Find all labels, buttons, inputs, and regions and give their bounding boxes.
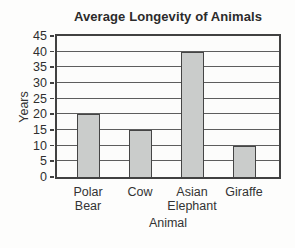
x-axis-title: Animal bbox=[55, 216, 281, 230]
gridline-40 bbox=[57, 51, 279, 52]
y-tick-mark-45 bbox=[50, 35, 54, 37]
y-tick-label-45: 45 bbox=[33, 29, 47, 43]
y-tick-mark-25 bbox=[50, 98, 54, 100]
y-tick-mark-5 bbox=[50, 160, 54, 162]
y-tick-label-5: 5 bbox=[40, 154, 47, 168]
bar-asian-elephant bbox=[181, 52, 204, 177]
y-tick-mark-15 bbox=[50, 129, 54, 131]
y-tick-mark-20 bbox=[50, 113, 54, 115]
bar-giraffe bbox=[233, 146, 256, 177]
bar-polar-bear bbox=[77, 114, 100, 177]
gridline-35 bbox=[57, 66, 279, 67]
y-tick-label-40: 40 bbox=[33, 45, 47, 59]
y-tick-mark-0 bbox=[50, 176, 54, 178]
y-tick-mark-30 bbox=[50, 82, 54, 84]
y-tick-label-20: 20 bbox=[33, 107, 47, 121]
gridline-30 bbox=[57, 82, 279, 83]
y-tick-label-10: 10 bbox=[33, 139, 47, 153]
x-category-label-giraffe: Giraffe bbox=[219, 185, 269, 199]
plot-area bbox=[55, 34, 281, 179]
y-tick-mark-35 bbox=[50, 66, 54, 68]
y-tick-label-15: 15 bbox=[33, 123, 47, 137]
y-tick-label-30: 30 bbox=[33, 76, 47, 90]
y-tick-label-0: 0 bbox=[40, 170, 47, 184]
x-axis-category-labels: Polar BearCowAsian ElephantGiraffe bbox=[57, 185, 279, 213]
y-tick-label-35: 35 bbox=[33, 60, 47, 74]
bar-cow bbox=[129, 130, 152, 177]
gridline-25 bbox=[57, 98, 279, 99]
y-tick-mark-40 bbox=[50, 51, 54, 53]
x-category-label-asian-elephant: Asian Elephant bbox=[167, 185, 217, 213]
x-category-label-cow: Cow bbox=[115, 185, 165, 199]
chart-title: Average Longevity of Animals bbox=[50, 9, 286, 24]
y-tick-label-25: 25 bbox=[33, 92, 47, 106]
bar-chart-figure: Average Longevity of Animals Years 05101… bbox=[0, 0, 295, 248]
y-axis-ticks: 051015202530354045 bbox=[0, 36, 54, 177]
x-category-label-polar-bear: Polar Bear bbox=[63, 185, 113, 213]
y-tick-mark-10 bbox=[50, 145, 54, 147]
